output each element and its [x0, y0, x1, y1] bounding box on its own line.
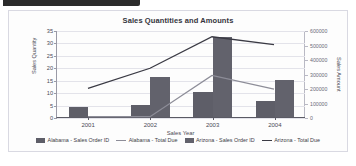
y-axis-title-right: Sales Amount	[336, 57, 342, 92]
y-axis-label-left: 0	[50, 115, 53, 121]
legend-item[interactable]: Arizona - Total Due	[262, 137, 320, 143]
legend-item[interactable]: Alabama - Total Due	[116, 137, 177, 143]
y-axis-tick-left	[54, 118, 57, 119]
y-axis-label-right: 0	[310, 115, 313, 121]
x-axis-label: 2003	[206, 122, 219, 128]
legend-label: Arizona - Sales Order ID	[196, 137, 255, 143]
legend-bar-swatch-icon	[185, 138, 194, 143]
x-axis-tick	[275, 117, 276, 120]
chart-title: Sales Quantities and Amounts	[9, 16, 347, 25]
legend-line-swatch-icon	[262, 140, 272, 141]
y-axis-tick-right	[305, 31, 308, 32]
y-axis-tick-right	[305, 46, 308, 47]
y-axis-tick-right	[305, 104, 308, 105]
x-axis-tick	[150, 117, 151, 120]
y-axis-label-left: 35	[47, 28, 53, 34]
y-axis-label-left: 30	[47, 40, 53, 46]
line-series	[88, 37, 274, 89]
x-axis-tick	[88, 117, 89, 120]
legend-line-swatch-icon	[116, 140, 126, 141]
legend-bar-swatch-icon	[36, 138, 45, 143]
y-axis-label-left: 20	[47, 65, 53, 71]
x-axis-label: 2002	[144, 122, 157, 128]
x-axis-title: Sales Year	[56, 130, 305, 136]
legend-label: Alabama - Sales Order ID	[48, 137, 110, 143]
y-axis-label-right: 400000	[310, 57, 327, 63]
y-axis-label-right: 200000	[310, 86, 327, 92]
chart-container: Sales Quantities and Amounts Sales Quant…	[8, 10, 348, 152]
y-axis-tick-right	[305, 89, 308, 90]
x-axis-label: 2001	[81, 122, 94, 128]
y-axis-label-left: 25	[47, 53, 53, 59]
legend-item[interactable]: Alabama - Sales Order ID	[36, 137, 109, 143]
y-axis-tick-right	[305, 118, 308, 119]
y-axis-label-right: 500000	[310, 43, 327, 49]
plot-area: 05101520253035 0100000200000300000400000…	[56, 31, 305, 118]
y-axis-tick-right	[305, 60, 308, 61]
x-axis-label: 2004	[268, 122, 281, 128]
y-axis-label-left: 5	[50, 103, 53, 109]
y-axis-title-left: Sales Quantity	[31, 38, 37, 74]
y-axis-label-left: 15	[47, 78, 53, 84]
line-series-layer	[57, 31, 305, 117]
y-axis-label-right: 300000	[310, 72, 327, 78]
legend-label: Alabama - Total Due	[129, 137, 178, 143]
legend-label: Arizona - Total Due	[274, 137, 320, 143]
window-title-strip	[3, 0, 140, 6]
y-axis-tick-right	[305, 75, 308, 76]
legend-item[interactable]: Arizona - Sales Order ID	[185, 137, 255, 143]
y-axis-label-right: 600000	[310, 28, 327, 34]
chart-legend: Alabama - Sales Order IDAlabama - Total …	[9, 137, 347, 143]
y-axis-label-right: 100000	[310, 101, 327, 107]
gridline	[57, 118, 305, 119]
x-axis-tick	[213, 117, 214, 120]
y-axis-label-left: 10	[47, 90, 53, 96]
line-series	[88, 75, 274, 116]
